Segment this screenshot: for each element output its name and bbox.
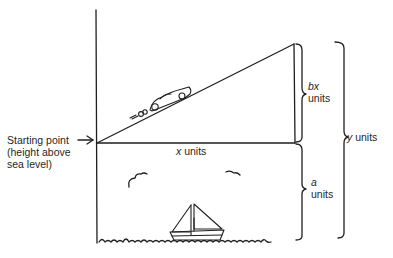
starting-point-label: Starting point (height above sea level) xyxy=(7,134,93,170)
bx-var: bx xyxy=(308,80,330,92)
diagram-canvas xyxy=(0,0,393,258)
bracket-a-icon xyxy=(296,144,306,240)
x-unit: units xyxy=(184,145,206,157)
a-unit: units xyxy=(311,188,333,200)
y-var: y xyxy=(347,131,352,143)
starting-point-line-2: (height above xyxy=(7,146,93,158)
car-icon xyxy=(130,87,191,119)
cloud-icon xyxy=(129,173,147,187)
starting-point-line-1: Starting point xyxy=(7,134,93,146)
sailboat-icon xyxy=(170,204,224,240)
vertical-axis xyxy=(96,10,97,243)
right-vertical-side xyxy=(294,44,295,143)
a-var: a xyxy=(311,176,333,188)
a-units-label: a units xyxy=(311,176,333,200)
y-unit: units xyxy=(355,131,377,143)
x-var: x xyxy=(176,145,181,157)
starting-point-line-3: sea level) xyxy=(7,158,93,170)
bx-units-label: bx units xyxy=(308,80,330,104)
y-units-label: y units xyxy=(347,131,377,143)
bracket-bx-icon xyxy=(296,44,306,142)
cloud-icon xyxy=(226,171,240,175)
bx-unit: units xyxy=(308,92,330,104)
x-units-label: x units xyxy=(176,145,206,157)
slope-line xyxy=(97,44,294,143)
